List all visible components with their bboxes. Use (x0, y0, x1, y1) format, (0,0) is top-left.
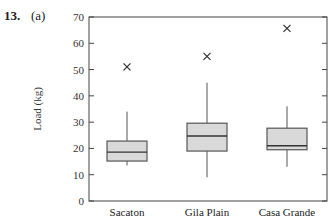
y-tick-label: 60 (73, 37, 85, 49)
y-tick-label: 10 (73, 169, 85, 181)
category-label: Casa Grande (259, 206, 316, 218)
y-tick-label: 20 (73, 142, 85, 154)
category-label: Gila Plain (185, 206, 230, 218)
iqr-box (267, 128, 307, 150)
iqr-box (187, 123, 227, 151)
y-tick-label: 40 (73, 90, 85, 102)
y-tick-label: 0 (79, 195, 85, 207)
category-label: Sacaton (110, 206, 145, 218)
plot-frame (89, 17, 327, 201)
y-tick-label: 30 (73, 116, 85, 128)
y-tick-label: 70 (73, 11, 85, 23)
y-axis-label: Load (kg) (31, 87, 44, 131)
y-tick-label: 50 (73, 64, 85, 76)
box-plot-chart: 010203040506070Load (kg)SacatonGila Plai… (0, 0, 336, 220)
iqr-box (107, 141, 147, 161)
